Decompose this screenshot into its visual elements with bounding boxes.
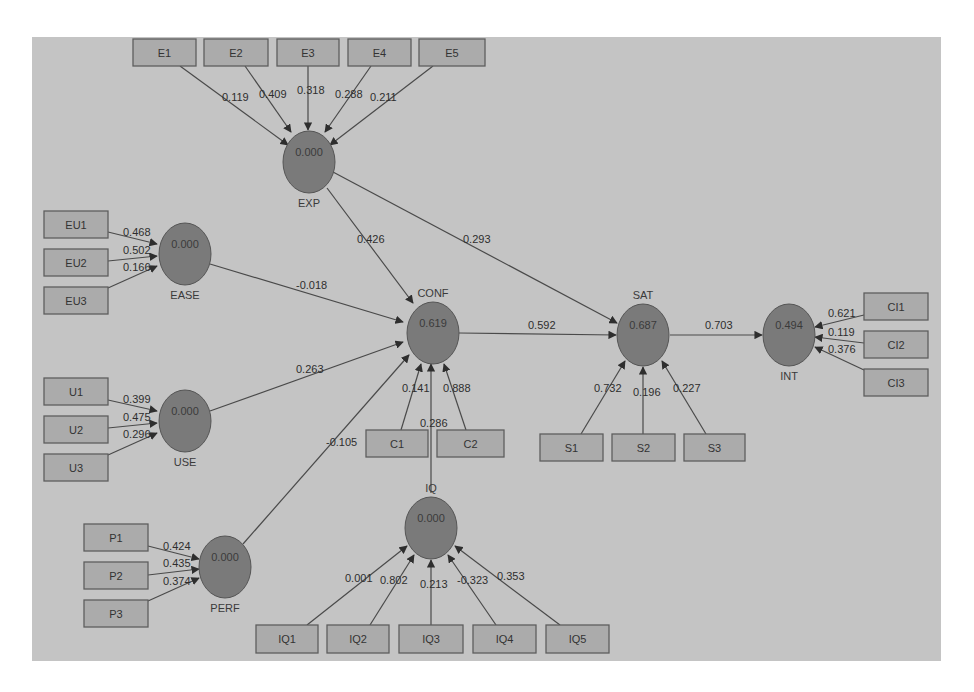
path-exp-to-conf[interactable]: 0.426: [327, 188, 413, 303]
construct-circle: [159, 223, 211, 285]
path-coefficient: 0.621: [828, 307, 856, 319]
path-s1-to-sat[interactable]: 0.732: [581, 361, 625, 434]
indicator-iq3[interactable]: IQ3: [399, 625, 463, 653]
indicator-u1[interactable]: U1: [44, 378, 108, 405]
construct-use[interactable]: 0.000USE: [159, 390, 211, 468]
indicator-u2[interactable]: U2: [44, 416, 108, 443]
indicator-p3[interactable]: P3: [84, 600, 148, 627]
construct-conf[interactable]: 0.619CONF: [407, 287, 459, 364]
indicator-p2[interactable]: P2: [84, 562, 148, 589]
arrow-icon: [448, 555, 496, 625]
path-p3-to-perf[interactable]: 0.374: [148, 575, 199, 601]
path-coefficient: 0.318: [297, 84, 325, 96]
path-coefficient: -0.105: [326, 436, 357, 448]
path-iq3-to-iq[interactable]: 0.213: [420, 560, 448, 625]
construct-ease[interactable]: 0.000EASE: [159, 223, 211, 301]
arrow-icon: [370, 555, 414, 625]
indicator-s2[interactable]: S2: [612, 434, 675, 461]
path-ci3-to-int[interactable]: 0.376: [815, 343, 864, 370]
indicator-ci1[interactable]: CI1: [864, 293, 928, 320]
construct-sat[interactable]: 0.687SAT: [617, 289, 669, 366]
indicator-e2[interactable]: E2: [204, 39, 268, 66]
path-coefficient: 0.703: [705, 319, 733, 331]
path-u3-to-use[interactable]: 0.296: [108, 428, 157, 455]
indicator-label: IQ4: [496, 633, 514, 645]
indicator-iq2[interactable]: IQ2: [327, 625, 389, 653]
path-sat-to-int[interactable]: 0.703: [670, 319, 762, 335]
indicator-s1[interactable]: S1: [540, 434, 603, 461]
path-s3-to-sat[interactable]: 0.227: [662, 361, 706, 434]
path-s2-to-sat[interactable]: 0.196: [633, 367, 661, 434]
path-e3-to-exp[interactable]: 0.318: [297, 66, 325, 130]
construct-int[interactable]: 0.494INT: [763, 304, 815, 382]
construct-perf[interactable]: 0.000PERF: [199, 536, 251, 614]
path-coefficient: 0.166: [123, 261, 151, 273]
path-eu2-to-ease[interactable]: 0.502: [108, 244, 157, 261]
path-eu3-to-ease[interactable]: 0.166: [108, 261, 157, 288]
indicator-label: EU3: [65, 295, 86, 307]
indicator-c2[interactable]: C2: [437, 430, 504, 457]
arrow-icon: [401, 364, 421, 430]
path-eu1-to-ease[interactable]: 0.468: [108, 226, 157, 244]
path-coefficient: 0.119: [828, 326, 855, 338]
path-exp-to-sat[interactable]: 0.293: [333, 172, 617, 323]
construct-label: EASE: [170, 289, 199, 301]
indicator-label: IQ2: [349, 633, 367, 645]
path-ci1-to-int[interactable]: 0.621: [815, 307, 864, 327]
path-coefficient: 0.409: [259, 88, 287, 100]
indicator-ci2[interactable]: CI2: [864, 331, 928, 358]
indicator-label: P2: [109, 570, 122, 582]
arrow-icon: [210, 342, 403, 411]
indicator-label: E1: [158, 47, 171, 59]
indicator-p1[interactable]: P1: [84, 524, 148, 551]
indicator-s3[interactable]: S3: [684, 434, 745, 461]
indicator-label: U3: [69, 462, 83, 474]
path-coefficient: 0.141: [402, 382, 430, 394]
path-coefficient: 0.119: [222, 91, 249, 103]
path-use-to-conf[interactable]: 0.263: [210, 342, 403, 411]
path-coefficient: 0.293: [463, 233, 491, 245]
indicator-e3[interactable]: E3: [277, 39, 339, 66]
path-p2-to-perf[interactable]: 0.435: [148, 557, 199, 575]
arrow-icon: [210, 264, 403, 322]
r-squared-value: 0.619: [419, 317, 447, 329]
path-e2-to-exp[interactable]: 0.409: [245, 66, 291, 132]
path-e5-to-exp[interactable]: 0.211: [330, 66, 433, 145]
path-u1-to-use[interactable]: 0.399: [108, 393, 157, 411]
construct-exp[interactable]: 0.000EXP: [283, 131, 335, 209]
path-iq4-to-iq[interactable]: -0.323: [448, 555, 496, 625]
indicator-eu1[interactable]: EU1: [44, 211, 108, 238]
indicator-iq5[interactable]: IQ5: [546, 625, 609, 653]
path-coefficient: 0.213: [420, 578, 448, 590]
indicator-label: S3: [708, 442, 721, 454]
indicator-u3[interactable]: U3: [44, 454, 108, 481]
path-conf-to-sat[interactable]: 0.592: [459, 319, 616, 335]
indicator-ci3[interactable]: CI3: [864, 369, 928, 396]
path-coefficient: 0.263: [296, 363, 324, 375]
indicator-label: S1: [565, 442, 578, 454]
r-squared-value: 0.000: [417, 512, 445, 524]
indicator-label: S2: [637, 442, 650, 454]
indicator-e5[interactable]: E5: [419, 39, 485, 66]
path-iq2-to-iq[interactable]: 0.802: [370, 555, 414, 625]
path-u2-to-use[interactable]: 0.475: [108, 411, 157, 428]
path-coefficient: 0.196: [633, 386, 661, 398]
construct-circle: [617, 304, 669, 366]
construct-iq[interactable]: 0.000IQ: [405, 482, 457, 559]
path-coefficient: 0.435: [163, 557, 191, 569]
indicator-eu3[interactable]: EU3: [44, 287, 108, 314]
path-ci2-to-int[interactable]: 0.119: [815, 326, 864, 343]
path-coefficient: 0.296: [123, 428, 151, 440]
path-e4-to-exp[interactable]: 0.288: [325, 66, 371, 132]
indicator-iq4[interactable]: IQ4: [473, 625, 536, 653]
indicator-e4[interactable]: E4: [348, 39, 411, 66]
indicator-eu2[interactable]: EU2: [44, 249, 108, 276]
indicator-c1[interactable]: C1: [366, 430, 428, 457]
indicator-label: C1: [390, 438, 404, 450]
indicator-iq1[interactable]: IQ1: [256, 625, 318, 653]
path-coefficient: 0.399: [123, 393, 151, 405]
indicator-e1[interactable]: E1: [133, 39, 196, 66]
path-ease-to-conf[interactable]: -0.018: [210, 264, 403, 322]
construct-circle: [283, 131, 335, 193]
indicator-label: U2: [69, 424, 83, 436]
